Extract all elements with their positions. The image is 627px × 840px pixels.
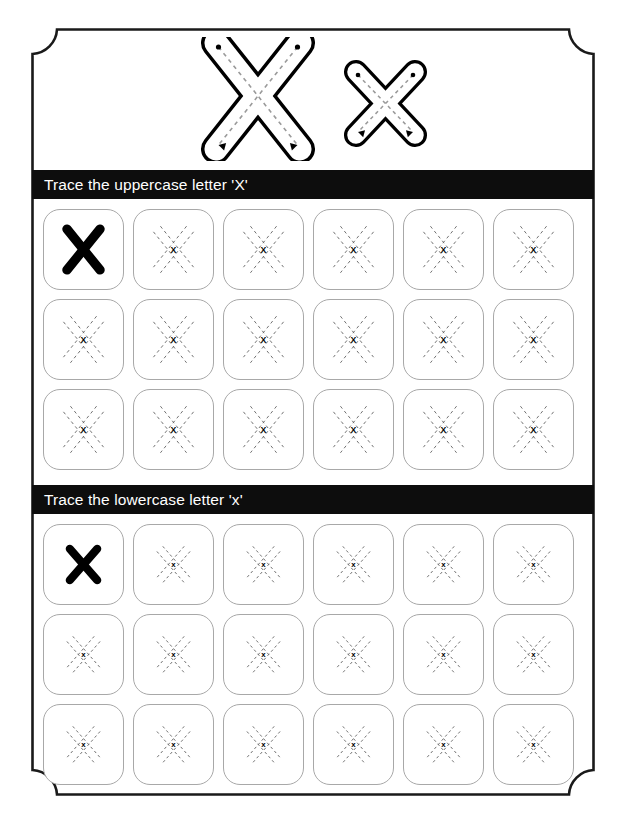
cell-dashed-guide-X: X bbox=[404, 209, 483, 290]
practice-cell-uppercase-r1c1[interactable] bbox=[43, 209, 124, 290]
practice-cell-uppercase-r3c3[interactable]: X bbox=[223, 389, 304, 470]
practice-cell-uppercase-r3c2[interactable]: X bbox=[133, 389, 214, 470]
svg-text:x: x bbox=[261, 650, 266, 659]
cell-dashed-guide-x: x bbox=[134, 524, 213, 605]
practice-cell-uppercase-r1c3[interactable]: X bbox=[223, 209, 304, 290]
svg-text:x: x bbox=[351, 740, 356, 749]
cell-dashed-guide-x: x bbox=[494, 614, 573, 695]
cell-dashed-guide-x: x bbox=[224, 704, 303, 785]
svg-text:X: X bbox=[171, 425, 177, 435]
cell-dashed-guide-X: X bbox=[494, 389, 573, 470]
practice-cell-lowercase-r3c5[interactable]: x bbox=[403, 704, 484, 785]
practice-cell-lowercase-r1c1[interactable] bbox=[43, 524, 124, 605]
cell-dashed-guide-x: x bbox=[134, 704, 213, 785]
practice-cell-lowercase-r3c2[interactable]: x bbox=[133, 704, 214, 785]
practice-cell-lowercase-r1c6[interactable]: x bbox=[493, 524, 574, 605]
hero-lowercase-letter-x bbox=[338, 52, 433, 147]
cell-solid-letter-X bbox=[44, 209, 123, 290]
svg-text:X: X bbox=[531, 425, 537, 435]
svg-text:X: X bbox=[351, 245, 357, 255]
svg-text:x: x bbox=[171, 740, 176, 749]
section-bar-uppercase-label: Trace the uppercase letter 'X' bbox=[32, 176, 248, 194]
svg-text:x: x bbox=[441, 740, 446, 749]
section-bar-lowercase-label: Trace the lowercase letter 'x' bbox=[32, 491, 243, 509]
cell-dashed-guide-X: X bbox=[314, 209, 393, 290]
cell-dashed-guide-x: x bbox=[44, 614, 123, 695]
svg-text:X: X bbox=[441, 335, 447, 345]
svg-text:X: X bbox=[531, 335, 537, 345]
svg-text:x: x bbox=[441, 560, 446, 569]
cell-dashed-guide-x: x bbox=[314, 704, 393, 785]
worksheet-frame: Trace the uppercase letter 'X' XXXXXXXXX… bbox=[31, 28, 595, 796]
cell-dashed-guide-X: X bbox=[44, 299, 123, 380]
practice-cell-lowercase-r3c4[interactable]: x bbox=[313, 704, 394, 785]
practice-cell-lowercase-r1c4[interactable]: x bbox=[313, 524, 394, 605]
practice-grid-lowercase: xxxxxxxxxxxxxxxxx bbox=[43, 524, 583, 785]
svg-text:x: x bbox=[531, 560, 536, 569]
cell-dashed-guide-x: x bbox=[494, 524, 573, 605]
cell-dashed-guide-x: x bbox=[314, 524, 393, 605]
svg-text:X: X bbox=[261, 425, 267, 435]
cell-dashed-guide-X: X bbox=[494, 299, 573, 380]
cell-dashed-guide-x: x bbox=[404, 704, 483, 785]
svg-text:X: X bbox=[81, 425, 87, 435]
svg-text:x: x bbox=[531, 650, 536, 659]
practice-cell-uppercase-r3c4[interactable]: X bbox=[313, 389, 394, 470]
practice-grid-uppercase: XXXXXXXXXXXXXXXXX bbox=[43, 209, 583, 470]
practice-row: xxxxxx bbox=[43, 704, 583, 785]
practice-cell-uppercase-r2c3[interactable]: X bbox=[223, 299, 304, 380]
cell-dashed-guide-x: x bbox=[134, 614, 213, 695]
svg-text:x: x bbox=[531, 740, 536, 749]
practice-row: xxxxxx bbox=[43, 614, 583, 695]
svg-text:X: X bbox=[531, 245, 537, 255]
practice-cell-uppercase-r2c5[interactable]: X bbox=[403, 299, 484, 380]
practice-cell-lowercase-r3c1[interactable]: x bbox=[43, 704, 124, 785]
practice-cell-lowercase-r1c2[interactable]: x bbox=[133, 524, 214, 605]
cell-dashed-guide-X: X bbox=[404, 389, 483, 470]
practice-cell-lowercase-r1c5[interactable]: x bbox=[403, 524, 484, 605]
practice-cell-uppercase-r3c6[interactable]: X bbox=[493, 389, 574, 470]
practice-cell-uppercase-r1c6[interactable]: X bbox=[493, 209, 574, 290]
practice-cell-uppercase-r1c4[interactable]: X bbox=[313, 209, 394, 290]
practice-cell-lowercase-r2c3[interactable]: x bbox=[223, 614, 304, 695]
svg-text:X: X bbox=[441, 425, 447, 435]
section-bar-uppercase: Trace the uppercase letter 'X' bbox=[32, 170, 594, 199]
svg-text:x: x bbox=[441, 650, 446, 659]
svg-text:X: X bbox=[81, 335, 87, 345]
svg-text:x: x bbox=[171, 650, 176, 659]
practice-cell-lowercase-r2c5[interactable]: x bbox=[403, 614, 484, 695]
practice-cell-lowercase-r3c6[interactable]: x bbox=[493, 704, 574, 785]
svg-text:x: x bbox=[351, 560, 356, 569]
cell-dashed-guide-X: X bbox=[224, 299, 303, 380]
cell-dashed-guide-x: x bbox=[404, 614, 483, 695]
svg-text:X: X bbox=[351, 335, 357, 345]
practice-cell-lowercase-r1c3[interactable]: x bbox=[223, 524, 304, 605]
cell-solid-letter-x bbox=[44, 524, 123, 605]
svg-text:X: X bbox=[171, 335, 177, 345]
practice-cell-uppercase-r2c1[interactable]: X bbox=[43, 299, 124, 380]
cell-dashed-guide-x: x bbox=[404, 524, 483, 605]
practice-cell-uppercase-r1c2[interactable]: X bbox=[133, 209, 214, 290]
cell-dashed-guide-X: X bbox=[44, 389, 123, 470]
svg-text:x: x bbox=[171, 560, 176, 569]
cell-dashed-guide-x: x bbox=[494, 704, 573, 785]
practice-cell-uppercase-r1c5[interactable]: X bbox=[403, 209, 484, 290]
svg-text:x: x bbox=[351, 650, 356, 659]
practice-cell-lowercase-r3c3[interactable]: x bbox=[223, 704, 304, 785]
practice-cell-uppercase-r2c4[interactable]: X bbox=[313, 299, 394, 380]
svg-text:X: X bbox=[261, 245, 267, 255]
practice-cell-lowercase-r2c4[interactable]: x bbox=[313, 614, 394, 695]
practice-cell-uppercase-r2c2[interactable]: X bbox=[133, 299, 214, 380]
practice-cell-lowercase-r2c2[interactable]: x bbox=[133, 614, 214, 695]
practice-cell-uppercase-r3c1[interactable]: X bbox=[43, 389, 124, 470]
practice-row: XXXXXX bbox=[43, 299, 583, 380]
practice-cell-lowercase-r2c6[interactable]: x bbox=[493, 614, 574, 695]
hero-uppercase-letter-x bbox=[194, 37, 322, 161]
hero-model-letters bbox=[31, 28, 595, 170]
practice-cell-uppercase-r3c5[interactable]: X bbox=[403, 389, 484, 470]
cell-dashed-guide-X: X bbox=[494, 209, 573, 290]
practice-cell-lowercase-r2c1[interactable]: x bbox=[43, 614, 124, 695]
cell-dashed-guide-X: X bbox=[314, 299, 393, 380]
practice-row: XXXXX bbox=[43, 209, 583, 290]
practice-cell-uppercase-r2c6[interactable]: X bbox=[493, 299, 574, 380]
